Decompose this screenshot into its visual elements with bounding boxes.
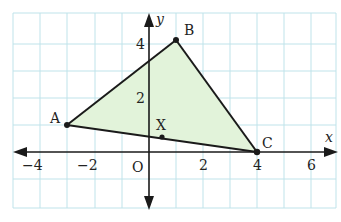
axis-label-y: y: [155, 11, 165, 27]
label-b: B: [184, 22, 194, 38]
x-tick-label: −4: [22, 157, 43, 173]
x-tick-label: −2: [77, 157, 98, 173]
arrow-up-icon: [144, 13, 154, 27]
point-b: [173, 37, 179, 43]
point-a: [64, 122, 70, 128]
axis-label-x: x: [325, 129, 333, 145]
arrow-left-icon: [13, 147, 27, 157]
y-tick-label: 2: [136, 90, 145, 106]
label-x: X: [156, 117, 166, 133]
label-a: A: [49, 110, 61, 126]
x-tick-label: 4: [253, 157, 262, 173]
x-tick-label: 2: [199, 157, 208, 173]
point-c: [254, 149, 260, 155]
origin-label: O: [132, 159, 143, 175]
point-x: [159, 134, 164, 139]
coordinate-diagram: A B C X y x O −4 −2 2 4 6 2 4: [0, 0, 341, 222]
y-tick-label: 4: [136, 36, 145, 52]
label-c: C: [262, 135, 273, 151]
x-tick-label: 6: [307, 157, 316, 173]
